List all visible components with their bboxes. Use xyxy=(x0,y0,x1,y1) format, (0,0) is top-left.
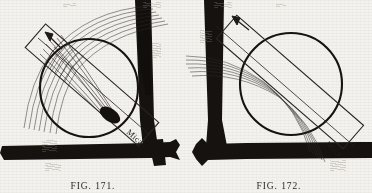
lens-circle-172 xyxy=(240,33,342,135)
converging-rays-171 xyxy=(40,35,113,118)
frame-base-left xyxy=(0,139,180,166)
strip-axis-172 xyxy=(216,26,354,146)
caption-172: FIG. 172. xyxy=(186,181,372,191)
figure-172-drawing: Mica xyxy=(186,0,372,193)
figure-171: Mica FIG. 171. xyxy=(0,0,186,193)
caption-171: FIG. 171. xyxy=(0,181,186,191)
figure-171-drawing: Mica xyxy=(0,0,186,193)
figure-172: Mica FIG. 172. xyxy=(186,0,372,193)
strip-axis-171 xyxy=(38,38,150,135)
figure-page: Mica FIG. 171. xyxy=(0,0,372,193)
